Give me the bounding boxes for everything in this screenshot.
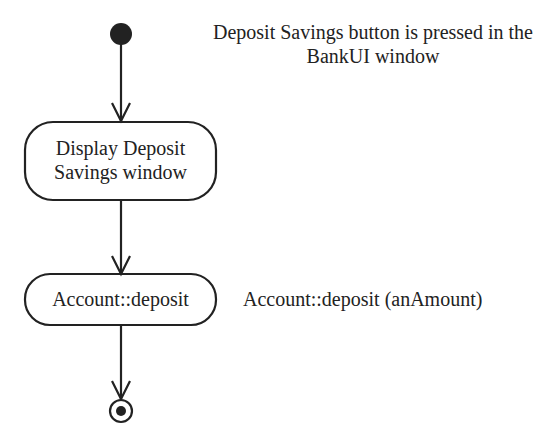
activity-display-window-label: Display Deposit Savings window: [25, 136, 216, 184]
deposit-call-annotation: Account::deposit (anAmount): [243, 287, 533, 311]
end-node-inner: [116, 406, 126, 416]
activity-account-deposit-label: Account::deposit: [25, 287, 216, 311]
trigger-annotation: Deposit Savings button is pressed in the…: [208, 20, 533, 68]
start-node: [110, 23, 132, 45]
